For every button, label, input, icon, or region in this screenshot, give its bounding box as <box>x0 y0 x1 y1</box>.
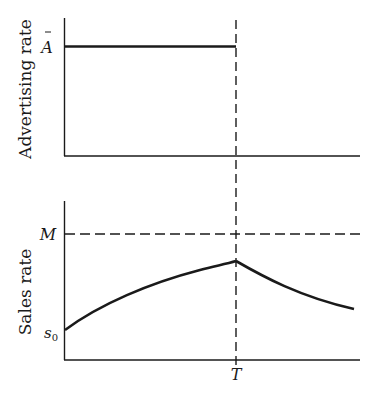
sales-panel: Sales rate M s0 <box>15 201 362 360</box>
advertising-level-label: A <box>39 38 53 57</box>
sales-y-label: Sales rate <box>15 249 35 336</box>
diagram-figure: Advertising rate A Sales rate M s0 T <box>0 0 378 411</box>
sales-curve-decay <box>236 261 354 309</box>
initial-sales-subscript: 0 <box>52 332 58 343</box>
advertising-panel: Advertising rate A <box>15 18 360 160</box>
initial-sales-label: s0 <box>44 324 58 343</box>
campaign-end-label: T <box>231 365 243 384</box>
advertising-y-label: Advertising rate <box>15 19 35 160</box>
sales-curve-growth <box>65 261 236 330</box>
saturation-label: M <box>39 225 57 244</box>
